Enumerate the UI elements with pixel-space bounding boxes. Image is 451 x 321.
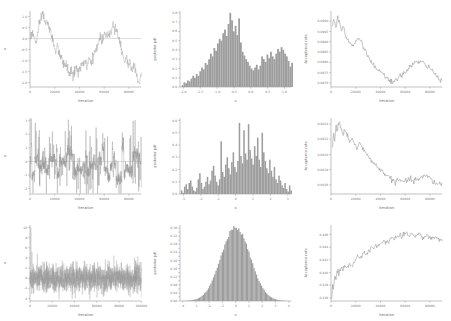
svg-text:40000: 40000 [375, 197, 385, 201]
hist-bar [186, 184, 188, 194]
svg-text:0.04: 0.04 [171, 291, 178, 295]
svg-text:1.0: 1.0 [282, 90, 287, 94]
hist-bar [223, 33, 225, 87]
hist-bar [281, 47, 283, 87]
svg-text:20000: 20000 [50, 197, 60, 201]
svg-text:Iteration: Iteration [78, 99, 93, 103]
hist-bar [272, 177, 274, 194]
svg-text:20000: 20000 [47, 304, 57, 308]
svg-text:60000: 60000 [99, 197, 109, 201]
hist-bar [247, 160, 249, 194]
svg-text:0.20: 0.20 [171, 259, 178, 263]
hist-bar [291, 190, 293, 194]
hist-bar [244, 238, 245, 301]
hist-bar [236, 172, 238, 194]
hist-bar [269, 160, 271, 194]
hist-bar [276, 300, 277, 301]
svg-text:Acceptance rate: Acceptance rate [304, 248, 308, 278]
svg-text:-0.5: -0.5 [21, 48, 27, 52]
hist-bar [222, 172, 224, 194]
hist-bar [208, 288, 209, 301]
svg-text:20000: 20000 [50, 90, 60, 94]
svg-text:0.444: 0.444 [319, 245, 328, 249]
hist-bar [286, 56, 288, 87]
hist-bar [277, 49, 279, 87]
svg-text:Acceptance rate: Acceptance rate [304, 34, 308, 64]
svg-text:0.4: 0.4 [173, 143, 178, 147]
hist-bar [290, 67, 292, 87]
svg-text:0.7: 0.7 [173, 20, 178, 24]
hist-bar [217, 268, 218, 301]
svg-text:-1: -1 [221, 304, 224, 308]
hist-bar [204, 293, 205, 301]
svg-text:3: 3 [275, 304, 277, 308]
hist-bar [247, 62, 249, 87]
svg-text:0.2: 0.2 [173, 168, 178, 172]
hist-bar [189, 81, 191, 87]
svg-text:0.4: 0.4 [173, 48, 178, 52]
hist-bar [254, 68, 256, 87]
hist-bar [228, 24, 230, 87]
plot-panel-row2-acceptance: 0200004000060000800000.00240.00220.00200… [301, 107, 451, 214]
hist-bar [198, 179, 200, 194]
trace-line [30, 11, 141, 84]
svg-text:1: 1 [25, 146, 27, 150]
plot-panel-row2-trace: 0200004000060000800003210-1-2Iterationx [0, 107, 150, 214]
hist-bar [193, 300, 194, 301]
hist-bar [279, 176, 281, 194]
svg-text:0: 0 [235, 304, 237, 308]
hist-bar [233, 226, 234, 301]
plot-panel-row1-acceptance: 0200004000060000800000.09000.08950.08900… [301, 0, 451, 107]
hist-bar [213, 277, 214, 301]
svg-text:1: 1 [252, 197, 254, 201]
hist-bar [278, 300, 279, 301]
hist-bar [288, 192, 290, 194]
hist-bar [269, 58, 271, 87]
hist-bar [197, 299, 198, 301]
trace-line [30, 119, 141, 194]
svg-text:-2: -2 [24, 187, 27, 191]
svg-text:0: 0 [235, 197, 237, 201]
svg-text:0.5: 0.5 [173, 131, 178, 135]
svg-text:-2.0: -2.0 [181, 90, 187, 94]
svg-text:0.08: 0.08 [171, 283, 178, 287]
hist-bar [227, 239, 228, 301]
hist-bar [199, 298, 200, 301]
svg-text:-1.5: -1.5 [198, 90, 204, 94]
svg-text:0.0: 0.0 [249, 90, 254, 94]
svg-text:0.0870: 0.0870 [317, 81, 328, 85]
hist-bar [186, 83, 188, 87]
hist-bar [202, 189, 204, 194]
hist-bar [259, 160, 261, 194]
svg-text:-3: -3 [195, 304, 198, 308]
hist-bar [283, 188, 285, 194]
hist-bar [225, 244, 226, 301]
svg-text:0.0895: 0.0895 [317, 30, 328, 34]
svg-text:0.0022: 0.0022 [317, 137, 328, 141]
hist-bar [265, 161, 267, 194]
hist-bar [190, 300, 191, 301]
svg-text:x: x [235, 206, 237, 210]
hist-bar [232, 230, 233, 301]
hist-bar [181, 190, 183, 194]
hist-bar [207, 65, 209, 87]
svg-text:1: 1 [248, 304, 250, 308]
hist-bar [245, 154, 247, 194]
svg-text:0.5: 0.5 [266, 90, 271, 94]
hist-bar [192, 187, 194, 194]
hist-bar [257, 138, 259, 194]
hist-bar [240, 43, 242, 87]
hist-bar [221, 141, 223, 194]
svg-text:0.0880: 0.0880 [317, 60, 328, 64]
hist-bar [212, 56, 214, 87]
hist-bar [219, 179, 221, 194]
svg-text:-0.5: -0.5 [231, 90, 237, 94]
hist-bar [212, 281, 213, 301]
hist-bar [227, 157, 229, 194]
hist-bar [257, 278, 258, 301]
hist-bar [263, 288, 264, 301]
hist-bar [258, 69, 260, 87]
hist-bar [189, 183, 191, 194]
svg-text:Iteration: Iteration [379, 206, 394, 210]
hist-bar [253, 165, 255, 194]
